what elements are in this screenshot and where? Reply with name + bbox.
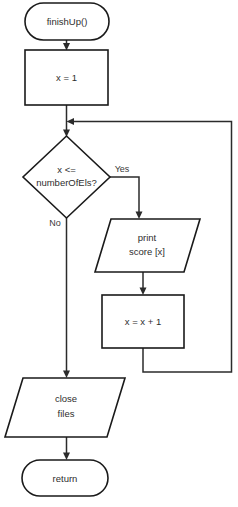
node-increment-assign[interactable]: x = x + 1	[102, 295, 184, 348]
branch-label-yes: Yes	[115, 164, 130, 174]
node-end-return[interactable]: return	[22, 460, 108, 496]
node-print-output[interactable]: print score [x]	[95, 219, 200, 272]
node-condition-line1: x <=	[57, 164, 76, 175]
node-increment-label: x = x + 1	[125, 316, 161, 327]
node-init-label: x = 1	[56, 72, 77, 83]
node-end-label: return	[53, 473, 78, 484]
flowchart-canvas: finishUp() x = 1 x <= numberOfEls? Yes N…	[0, 0, 238, 507]
node-start-label: finishUp()	[47, 16, 88, 27]
node-print-line2: score [x]	[129, 246, 165, 257]
node-close-line1: close	[55, 393, 77, 404]
node-condition-decision[interactable]: x <= numberOfEls?	[23, 136, 110, 218]
node-init-assign[interactable]: x = 1	[25, 50, 108, 105]
node-print-line1: print	[138, 232, 157, 243]
connector-no-to-close	[63, 218, 70, 378]
node-condition-line2: numberOfEls?	[36, 177, 97, 188]
node-close-files-output[interactable]: close files	[5, 378, 125, 437]
connector-close-to-return	[63, 437, 70, 460]
connector-start-to-init	[63, 40, 70, 51]
node-close-line2: files	[58, 408, 75, 419]
connector-print-to-increment	[140, 272, 147, 295]
flowchart-svg: finishUp() x = 1 x <= numberOfEls? Yes N…	[0, 0, 238, 507]
branch-label-no: No	[49, 218, 61, 228]
connector-yes-to-print	[110, 177, 143, 219]
node-start-finishup[interactable]: finishUp()	[25, 3, 109, 40]
